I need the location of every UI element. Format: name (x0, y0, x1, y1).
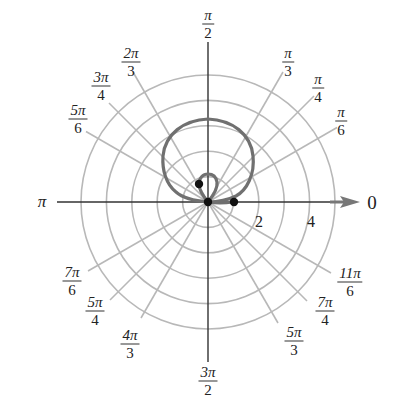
label-num: 3π (93, 69, 108, 85)
label-5pi-over-3: 5π3 (284, 325, 303, 358)
radial-tick-4: 4 (307, 213, 315, 231)
label-den: 6 (74, 120, 82, 136)
label-den: 4 (314, 89, 322, 105)
label-pi-over-4: π4 (312, 72, 324, 105)
label-7pi-over-4: 7π4 (315, 295, 334, 328)
label-pi-over-2: π2 (202, 8, 214, 41)
label-num: π (337, 104, 345, 120)
label-7pi-over-6: 7π6 (62, 265, 81, 298)
label-num: 2π (123, 45, 138, 61)
label-zero: 0 (367, 195, 377, 210)
label-3pi-over-2: 3π2 (198, 365, 217, 398)
label-num: 11π (339, 265, 360, 281)
label-4pi-over-3: 4π3 (120, 328, 139, 361)
label-num: 5π (286, 324, 301, 340)
label-num: 5π (87, 294, 102, 310)
label-num: 7π (64, 264, 79, 280)
polar-plot (0, 0, 395, 416)
label-num: π (284, 45, 292, 61)
label-pi: π (38, 194, 47, 209)
point-origin (204, 198, 212, 206)
point-on-polar-axis (230, 198, 238, 206)
label-num: 4π (122, 327, 137, 343)
label-5pi-over-4: 5π4 (85, 295, 104, 328)
label-den: 4 (97, 87, 105, 103)
label-den: 6 (346, 283, 354, 299)
label-den: 4 (91, 312, 99, 328)
label-den: 3 (126, 345, 134, 361)
label-5pi-over-6: 5π6 (68, 103, 87, 136)
label-pi-over-3: π3 (282, 46, 294, 79)
label-text: 0 (367, 192, 377, 213)
label-11pi-over-6: 11π6 (337, 266, 362, 299)
label-den: 3 (284, 63, 292, 79)
label-num: 7π (317, 294, 332, 310)
label-den: 3 (127, 63, 135, 79)
label-2pi-over-3: 2π3 (121, 46, 140, 79)
label-text: π (38, 192, 47, 211)
radial-tick-2: 2 (255, 213, 263, 231)
label-num: π (314, 71, 322, 87)
label-num: π (204, 7, 212, 23)
label-den: 6 (337, 122, 345, 138)
label-den: 6 (68, 282, 76, 298)
label-den: 2 (204, 25, 212, 41)
label-3pi-over-4: 3π4 (91, 70, 110, 103)
label-den: 2 (204, 382, 212, 398)
label-den: 4 (321, 312, 329, 328)
point-inner-loop (195, 180, 203, 188)
label-num: 5π (70, 102, 85, 118)
label-num: 3π (200, 364, 215, 380)
label-pi-over-6: π6 (335, 105, 347, 138)
label-den: 3 (290, 342, 298, 358)
